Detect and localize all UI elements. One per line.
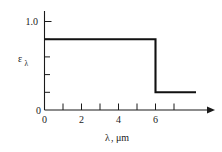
x-tick-label-6: 6 — [153, 114, 158, 125]
x-tick-label-4: 4 — [116, 114, 121, 125]
x-tick-label-2: 2 — [79, 114, 84, 125]
x-axis-arrow-icon — [207, 107, 215, 114]
y-tick-label-zero: 0 — [36, 105, 41, 116]
y-tick-label-max: 1.0 — [26, 16, 39, 27]
x-axis-title-symbol: λ — [105, 132, 110, 143]
x-axis-title-units: , μm — [111, 132, 129, 143]
emissivity-step-chart: 1.0 0 0 2 4 6 ε λ λ , μm — [0, 0, 222, 152]
y-axis-title-subscript: λ — [25, 59, 29, 68]
emissivity-step-curve — [45, 39, 197, 92]
figure-container: 1.0 0 0 2 4 6 ε λ λ , μm — [0, 0, 222, 152]
y-axis-title-symbol: ε — [18, 53, 22, 64]
x-tick-label-0: 0 — [42, 114, 47, 125]
